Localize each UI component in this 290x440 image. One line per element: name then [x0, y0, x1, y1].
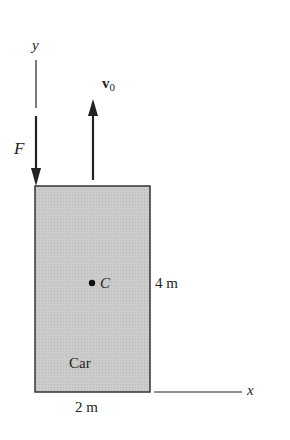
- diagram-canvas: [0, 0, 290, 440]
- center-of-mass-dot: [89, 280, 95, 286]
- y-axis-label: y: [32, 38, 39, 53]
- x-axis-label: x: [247, 383, 254, 398]
- velocity-subscript: 0: [110, 81, 116, 93]
- car-body: [35, 186, 150, 392]
- velocity-label: v0: [102, 76, 115, 93]
- center-label: C: [100, 276, 110, 291]
- velocity-symbol: v: [102, 75, 110, 91]
- height-dimension: 4 m: [155, 276, 178, 291]
- car-label: Car: [69, 356, 91, 371]
- width-dimension: 2 m: [75, 400, 98, 415]
- force-arrow: [31, 116, 41, 186]
- velocity-arrow: [88, 99, 98, 180]
- force-label: F: [14, 140, 24, 157]
